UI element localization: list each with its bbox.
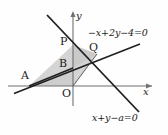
point-label-o: O — [62, 88, 71, 99]
y-axis-arrowhead — [71, 11, 76, 17]
equation-label-first: −x+2y−4=0 — [88, 28, 148, 38]
point-label-q: Q — [89, 42, 98, 53]
point-label-b: B — [59, 58, 67, 69]
equation-label-second: x+y−a=0 — [92, 113, 138, 123]
point-label-p: P — [60, 36, 67, 47]
figure-canvas — [0, 0, 168, 135]
geometry-figure: P Q B A O y x −x+2y−4=0 x+y−a=0 — [0, 0, 168, 135]
point-label-a: A — [21, 70, 29, 81]
x-axis-label: x — [143, 87, 149, 97]
y-axis-label: y — [76, 11, 82, 21]
